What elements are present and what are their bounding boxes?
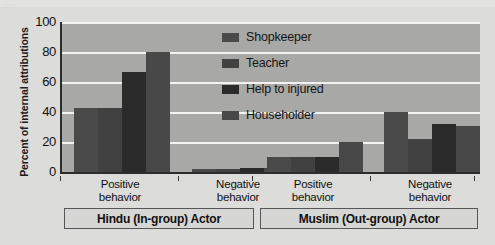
actor-group-label: Muslim (Out-group) Actor (260, 208, 478, 229)
y-axis-tick-label: 40 (22, 105, 56, 118)
bar (240, 168, 264, 173)
legend-item-label: Teacher (246, 56, 289, 70)
x-axis-tick-mark (370, 176, 371, 181)
x-label-line2: behavior (273, 191, 353, 204)
x-label-line2: behavior (80, 191, 160, 204)
legend-item[interactable]: Householder (222, 102, 392, 128)
legend-item-label: Shopkeeper (246, 30, 311, 44)
legend-swatch-icon (222, 59, 239, 68)
bar (122, 72, 146, 173)
x-label-line2: behavior (198, 191, 278, 204)
y-axis-tick-label: 20 (22, 135, 56, 148)
bar (98, 108, 122, 173)
x-axis-category-label: Positivebehavior (273, 178, 353, 203)
legend-item-label: Householder (246, 108, 315, 122)
legend-item[interactable]: Teacher (222, 50, 392, 76)
x-label-line1: Positive (101, 178, 140, 190)
bar (315, 157, 339, 172)
bar (74, 108, 98, 173)
y-axis-tick-label: 100 (22, 15, 56, 28)
y-axis-tick-label: 0 (22, 165, 56, 178)
y-axis-tick-label: 80 (22, 45, 56, 58)
x-label-line1: Positive (294, 178, 333, 190)
x-axis-tick-mark (474, 176, 475, 181)
x-axis-category-labels: PositivebehaviorNegativebehaviorPositive… (60, 176, 480, 206)
y-axis-tick-label: 60 (22, 75, 56, 88)
bar (192, 169, 216, 172)
chart-legend: ShopkeeperTeacherHelp to injuredHousehol… (222, 24, 392, 128)
legend-item[interactable]: Help to injured (222, 76, 392, 102)
x-label-line1: Negative (408, 178, 452, 190)
x-axis-tick-mark (252, 176, 253, 181)
legend-swatch-icon (222, 111, 239, 120)
x-axis-category-label: Negativebehavior (198, 178, 278, 203)
chart-figure: , , , Percent of internal attributions 1… (0, 0, 495, 245)
legend-swatch-icon (222, 33, 239, 42)
bar (216, 169, 240, 172)
bar (408, 139, 432, 172)
legend-item[interactable]: Shopkeeper (222, 24, 392, 50)
y-axis-tick-labels: 100806040200 (18, 22, 56, 172)
actor-group-labels: Hindu (In-group) ActorMuslim (Out-group)… (60, 208, 480, 232)
x-axis-category-label: Positivebehavior (80, 178, 160, 203)
actor-group-label: Hindu (In-group) Actor (64, 208, 254, 229)
x-axis-tick-mark (60, 176, 61, 181)
bar (267, 157, 291, 172)
scan-caption-artifact: , , , (0, 0, 495, 7)
legend-swatch-icon (222, 85, 239, 94)
legend-item-label: Help to injured (246, 82, 324, 96)
x-axis-tick-mark (178, 176, 179, 181)
bar (432, 124, 456, 172)
scan-caption-text: , , , (0, 0, 495, 7)
bar (291, 157, 315, 172)
bar (456, 126, 480, 173)
bar (146, 52, 170, 172)
bar (339, 142, 363, 172)
x-axis-category-label: Negativebehavior (390, 178, 470, 203)
x-label-line1: Negative (216, 178, 260, 190)
x-label-line2: behavior (390, 191, 470, 204)
